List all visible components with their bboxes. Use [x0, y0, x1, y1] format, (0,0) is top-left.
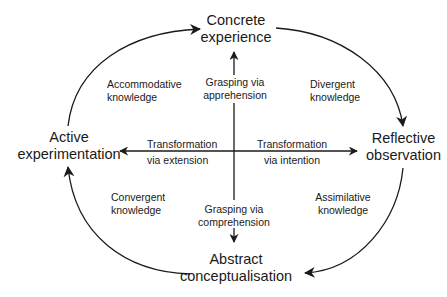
arc-abstract-to-active [68, 167, 190, 274]
axis-apprehension-line2: apprehension [199, 89, 271, 102]
node-active-line2: experimentation [14, 146, 124, 163]
quadrant-assimilative-line2: knowledge [307, 204, 379, 217]
node-reflective-line2: observation [360, 147, 447, 164]
quadrant-divergent-knowledge: Divergent knowledge [310, 78, 360, 103]
node-abstract-line2: conceptualisation [176, 268, 296, 285]
axis-intention-line1: Transformation [256, 138, 328, 151]
quadrant-convergent-knowledge: Convergent knowledge [111, 191, 165, 216]
axis-intention-line2: via intention [256, 154, 328, 167]
axis-comprehension-line1: Grasping via [194, 203, 274, 216]
node-abstract-conceptualisation: Abstract conceptualisation [176, 251, 296, 284]
quadrant-accommodative-line2: knowledge [107, 91, 182, 104]
quadrant-assimilative-line1: Assimilative [307, 191, 379, 204]
axis-label-intention: Transformation via intention [256, 138, 328, 166]
quadrant-divergent-line2: knowledge [310, 91, 360, 104]
node-abstract-line1: Abstract [176, 251, 296, 268]
arc-concrete-to-reflective [276, 28, 403, 126]
quadrant-divergent-line1: Divergent [310, 78, 360, 91]
node-concrete-experience: Concrete experience [196, 12, 276, 45]
axis-label-extension: Transformation via extension [147, 138, 217, 166]
node-active-line1: Active [14, 129, 124, 146]
arc-reflective-to-abstract [305, 168, 403, 273]
axis-extension-line2: via extension [147, 154, 217, 167]
quadrant-convergent-line2: knowledge [111, 204, 165, 217]
quadrant-convergent-line1: Convergent [111, 191, 165, 204]
node-reflective-line1: Reflective [360, 130, 447, 147]
node-active-experimentation: Active experimentation [14, 129, 124, 162]
node-concrete-line2: experience [196, 29, 276, 46]
quadrant-accommodative-knowledge: Accommodative knowledge [107, 78, 182, 103]
quadrant-assimilative-knowledge: Assimilative knowledge [307, 191, 379, 216]
axis-label-apprehension: Grasping via apprehension [199, 76, 271, 101]
node-reflective-observation: Reflective observation [360, 130, 447, 163]
axis-extension-line1: Transformation [147, 138, 217, 151]
axis-apprehension-line1: Grasping via [199, 76, 271, 89]
axis-label-comprehension: Grasping via comprehension [194, 203, 274, 228]
quadrant-accommodative-line1: Accommodative [107, 78, 182, 91]
node-concrete-line1: Concrete [196, 12, 276, 29]
axis-comprehension-line2: comprehension [194, 216, 274, 229]
